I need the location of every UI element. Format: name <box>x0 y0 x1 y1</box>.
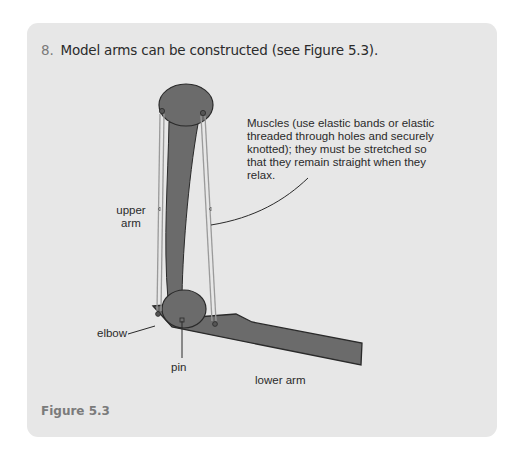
muscles-label: Muscles (use elastic bands or elastic th… <box>247 117 447 182</box>
pin-label: pin <box>171 361 186 374</box>
upper-arm-label-line2: arm <box>111 217 151 230</box>
upper-arm-label: upper arm <box>111 204 151 230</box>
muscles-leader <box>211 178 308 225</box>
lower-arm-hole <box>213 322 218 327</box>
elastic-left-b <box>161 114 164 311</box>
figure-caption: Figure 5.3 <box>41 404 110 418</box>
elbow-label: elbow <box>97 327 127 340</box>
lower-arm-label: lower arm <box>255 374 305 387</box>
top-left-hole <box>159 108 164 113</box>
upper-arm-label-line1: upper <box>111 204 151 217</box>
elbow-leader <box>128 326 155 334</box>
elbow-hole <box>156 312 161 317</box>
top-right-hole <box>200 110 205 115</box>
upper-arm-shaft <box>166 122 198 302</box>
model-arm-diagram <box>0 0 530 457</box>
elastic-left-a <box>157 114 160 311</box>
